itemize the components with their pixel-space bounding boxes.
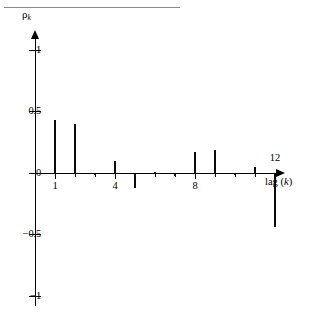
bar-lag-3	[94, 173, 96, 174]
y-axis-arrow-icon	[31, 30, 39, 39]
bar-lag-7	[174, 173, 176, 175]
x-tick-mark-minor	[75, 173, 76, 177]
autocorrelation-figure: ρk lag (k) 10.50−0.5−1 14812	[0, 0, 318, 313]
bar-lag-12	[274, 173, 276, 227]
x-tick-mark-minor	[155, 173, 156, 177]
y-tick-label: 0	[15, 168, 41, 178]
bar-lag-11	[254, 167, 256, 173]
x-tick-mark-minor	[215, 173, 216, 177]
bar-lag-1	[54, 120, 56, 173]
x-tick-label: 1	[45, 180, 65, 191]
x-axis-title: lag (k)	[265, 176, 292, 188]
bar-lag-9	[214, 150, 216, 173]
y-axis-title: ρk	[22, 8, 31, 24]
y-tick-label: −0.5	[15, 229, 41, 239]
bar-lag-10	[234, 173, 236, 174]
x-axis-title-suffix: )	[289, 176, 293, 187]
x-tick-label: 8	[185, 180, 205, 191]
bar-lag-5	[134, 173, 136, 188]
x-tick-label: 12	[265, 152, 285, 163]
y-axis-title-subscript: k	[28, 13, 31, 22]
bar-lag-8	[194, 152, 196, 173]
x-axis-line	[35, 173, 278, 174]
x-tick-mark-major	[195, 173, 196, 179]
bar-lag-2	[74, 124, 76, 173]
x-tick-mark-major	[55, 173, 56, 179]
x-tick-label: 4	[105, 180, 125, 191]
y-tick-label: 1	[15, 45, 41, 55]
x-tick-mark-major	[115, 173, 116, 179]
bar-lag-6	[154, 172, 156, 173]
y-tick-label: 0.5	[15, 106, 41, 116]
bar-lag-4	[114, 161, 116, 173]
y-tick-label: −1	[15, 291, 41, 301]
x-tick-mark-minor	[255, 173, 256, 177]
